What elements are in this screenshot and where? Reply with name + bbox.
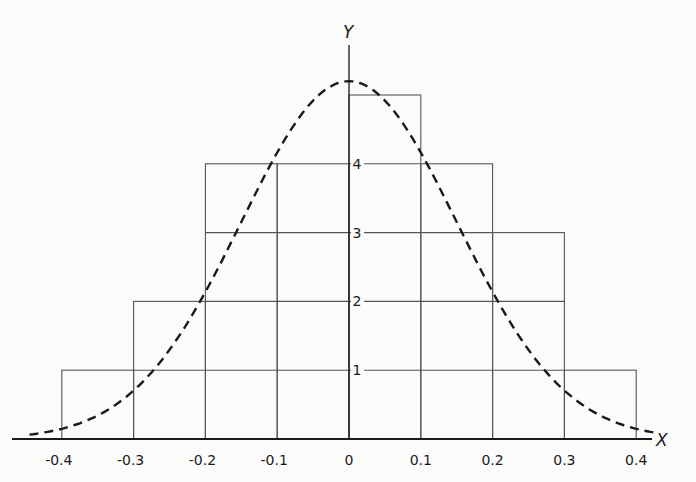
x-tick-label: -0.4 (45, 452, 72, 468)
x-tick-label: 0 (345, 452, 354, 468)
y-tick-labels: 1234 (351, 155, 364, 379)
x-tick-label: -0.3 (117, 452, 144, 468)
y-axis-label: Y (343, 22, 355, 42)
y-tick-label: 1 (353, 362, 362, 378)
histogram-chart: -0.4-0.3-0.2-0.100.10.20.30.4 1234 Y X (0, 0, 696, 482)
y-tick-label: 2 (353, 293, 362, 309)
y-tick-label: 4 (353, 156, 362, 172)
x-tick-label: 0.2 (481, 452, 503, 468)
x-tick-label: -0.2 (189, 452, 216, 468)
histogram-bar (349, 95, 421, 439)
histogram-bar (62, 370, 134, 439)
x-tick-label: 0.4 (625, 452, 647, 468)
x-tick-label: 0.3 (553, 452, 575, 468)
x-tick-label: 0.1 (410, 452, 432, 468)
normal-curve (30, 81, 658, 434)
x-axis-label: X (655, 430, 668, 450)
histogram-bar (564, 370, 636, 439)
y-tick-label: 3 (353, 225, 362, 241)
x-tick-labels: -0.4-0.3-0.2-0.100.10.20.30.4 (45, 452, 647, 468)
histogram-bar (493, 233, 565, 439)
x-tick-label: -0.1 (261, 452, 288, 468)
